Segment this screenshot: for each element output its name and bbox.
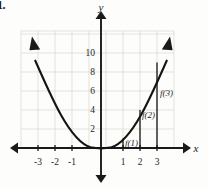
parabola-plot: -3 -2 -1 1 2 3 2 4 6 8 10 x y (0, 0, 208, 188)
figure-screenshot: 1. (0, 0, 208, 188)
x-tick-label-2: 2 (138, 157, 143, 167)
x-tick-label-neg1: -1 (68, 157, 76, 167)
y-tick-label-2: 2 (90, 124, 95, 134)
curve-arrow-upper-left (29, 37, 40, 51)
x-axis-label: x (193, 142, 199, 154)
y-axis-arrow-down (96, 175, 107, 183)
x-tick-label-neg3: -3 (34, 157, 42, 167)
x-axis-arrow-right (183, 143, 191, 154)
y-tick-label-4: 4 (90, 105, 95, 115)
y-axis (96, 11, 107, 183)
x-tick-label-neg2: -2 (51, 157, 59, 167)
grid-lines (21, 31, 174, 148)
y-tick-label-10: 10 (86, 48, 96, 58)
y-tick-label-8: 8 (90, 67, 95, 77)
x-tick-label-3: 3 (155, 157, 160, 167)
x-axis-arrow-left (10, 143, 18, 154)
annotation-label-f1: f(1) (125, 138, 138, 148)
annotation-label-f2: f(2) (142, 110, 155, 120)
curve-arrow-upper-right (162, 37, 173, 51)
annotation-label-f3: f(3) (160, 88, 173, 98)
x-tick-label-1: 1 (121, 157, 126, 167)
y-axis-label: y (98, 1, 104, 13)
y-tick-label-6: 6 (90, 86, 95, 96)
